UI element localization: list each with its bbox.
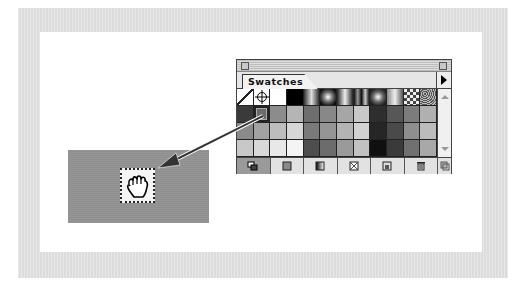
drag-arrow bbox=[0, 0, 522, 288]
